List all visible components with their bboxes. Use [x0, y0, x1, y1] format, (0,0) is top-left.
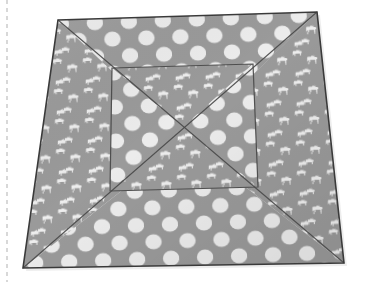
- quilt-block-photo: [0, 0, 365, 282]
- photo-canvas: Square quilt block photographed at a sli…: [0, 0, 365, 282]
